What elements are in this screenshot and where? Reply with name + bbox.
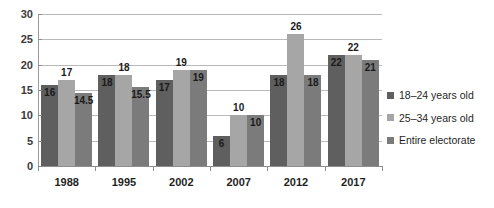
legend-item[interactable]: Entire electorate bbox=[387, 135, 491, 146]
bar: 19 bbox=[173, 70, 190, 166]
x-axis-tick-label: 2017 bbox=[325, 176, 382, 188]
y-axis-tick-label: 30 bbox=[3, 9, 33, 20]
x-axis-tick-label: 2007 bbox=[210, 176, 267, 188]
bar: 26 bbox=[287, 34, 304, 166]
y-axis-tick-mark bbox=[38, 39, 42, 40]
bar: 22 bbox=[328, 55, 345, 166]
legend-swatch-icon bbox=[387, 137, 394, 144]
y-axis-tick-label: 25 bbox=[3, 34, 33, 45]
x-axis-tick-mark bbox=[95, 166, 96, 171]
x-axis-tick-mark bbox=[267, 166, 268, 171]
bar-value-label: 10 bbox=[233, 103, 244, 113]
y-axis-tick-label: 20 bbox=[3, 59, 33, 70]
bar: 15.5 bbox=[132, 87, 149, 166]
bar: 22 bbox=[345, 55, 362, 166]
bar-value-label: 17 bbox=[159, 83, 170, 93]
bar: 6 bbox=[213, 136, 230, 166]
bar: 18 bbox=[115, 75, 132, 166]
bar: 10 bbox=[247, 115, 264, 166]
legend-item[interactable]: 25–34 years old bbox=[387, 113, 491, 124]
bar-group-1988: 161714.5 bbox=[38, 14, 95, 166]
bar-group-1995: 181815.5 bbox=[95, 14, 152, 166]
bar-group-2002: 171919 bbox=[153, 14, 210, 166]
chart-legend: 18–24 years old25–34 years oldEntire ele… bbox=[387, 90, 491, 158]
bar: 14.5 bbox=[75, 93, 92, 166]
bar-group-2007: 61010 bbox=[210, 14, 267, 166]
bar: 17 bbox=[58, 80, 75, 166]
bar-value-label: 18 bbox=[118, 63, 129, 73]
legend-item[interactable]: 18–24 years old bbox=[387, 90, 491, 101]
y-axis-tick-mark bbox=[38, 141, 42, 142]
bar: 18 bbox=[304, 75, 321, 166]
y-axis-tick-label: 5 bbox=[3, 135, 33, 146]
x-axis-tick-mark bbox=[153, 166, 154, 171]
x-axis-tick-mark bbox=[325, 166, 326, 171]
y-axis-tick-label: 10 bbox=[3, 110, 33, 121]
x-axis-tick-mark bbox=[382, 166, 383, 171]
y-axis-tick-mark bbox=[38, 14, 42, 15]
bar: 18 bbox=[270, 75, 287, 166]
y-axis-tick-mark bbox=[38, 65, 42, 66]
bar-value-label: 18 bbox=[101, 78, 112, 88]
x-axis-tick-labels: 198819952002200720122017 bbox=[38, 176, 382, 188]
bar-value-label: 21 bbox=[365, 63, 376, 73]
bar-value-label: 18 bbox=[273, 78, 284, 88]
bar-value-label: 22 bbox=[348, 43, 359, 53]
y-axis-tick-label: 15 bbox=[3, 85, 33, 96]
x-axis-tick-mark bbox=[210, 166, 211, 171]
bar-value-label: 26 bbox=[290, 22, 301, 32]
bar: 19 bbox=[190, 70, 207, 166]
bar-value-label: 14.5 bbox=[74, 96, 93, 106]
bar-group-2017: 222221 bbox=[325, 14, 382, 166]
bar-value-label: 17 bbox=[61, 68, 72, 78]
bar-groups: 161714.5181815.517191961010182618222221 bbox=[38, 14, 382, 166]
legend-label: Entire electorate bbox=[399, 135, 475, 146]
legend-label: 25–34 years old bbox=[399, 113, 474, 124]
y-axis-tick-mark bbox=[38, 115, 42, 116]
x-axis-tick-label: 2002 bbox=[153, 176, 210, 188]
y-axis-tick-labels: 051015202530 bbox=[0, 14, 33, 166]
bar-group-2012: 182618 bbox=[267, 14, 324, 166]
bar-value-label: 15.5 bbox=[131, 90, 150, 100]
bar-value-label: 16 bbox=[44, 88, 55, 98]
x-axis-tick-label: 1995 bbox=[95, 176, 152, 188]
y-axis-tick-mark bbox=[38, 90, 42, 91]
bar-value-label: 19 bbox=[176, 58, 187, 68]
y-axis-tick-mark bbox=[38, 166, 42, 167]
bar-value-label: 18 bbox=[307, 78, 318, 88]
bar: 16 bbox=[41, 85, 58, 166]
legend-label: 18–24 years old bbox=[399, 90, 474, 101]
bar-value-label: 10 bbox=[250, 118, 261, 128]
bar: 18 bbox=[98, 75, 115, 166]
y-axis-tick-label: 0 bbox=[3, 161, 33, 172]
bar-value-label: 22 bbox=[331, 58, 342, 68]
bar-value-label: 6 bbox=[219, 139, 225, 149]
bar-chart: 051015202530 161714.5181815.517191961010… bbox=[0, 0, 494, 208]
bar: 21 bbox=[362, 60, 379, 166]
bar: 17 bbox=[156, 80, 173, 166]
bar-value-label: 19 bbox=[193, 73, 204, 83]
legend-swatch-icon bbox=[387, 114, 394, 121]
bar: 10 bbox=[230, 115, 247, 166]
x-axis-tick-label: 2012 bbox=[267, 176, 324, 188]
x-axis-tick-label: 1988 bbox=[38, 176, 95, 188]
legend-swatch-icon bbox=[387, 92, 394, 99]
